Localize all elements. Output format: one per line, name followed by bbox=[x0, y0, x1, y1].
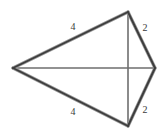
edge-bottom-left bbox=[13, 68, 128, 126]
edge-right-bottom bbox=[128, 68, 155, 126]
diagonals-group bbox=[13, 12, 155, 126]
edge-top-right bbox=[128, 12, 155, 68]
edge-label-upper-right: 2 bbox=[143, 23, 148, 33]
outline-highlight-group bbox=[13, 12, 155, 126]
outline-group bbox=[13, 12, 155, 126]
edge-label-lower-left: 4 bbox=[71, 107, 76, 117]
edge-label-upper-left: 4 bbox=[71, 22, 76, 32]
figure-canvas bbox=[0, 0, 165, 135]
edge-label-lower-right: 2 bbox=[143, 105, 148, 115]
geometric-figure: 4 2 4 2 bbox=[0, 0, 165, 135]
